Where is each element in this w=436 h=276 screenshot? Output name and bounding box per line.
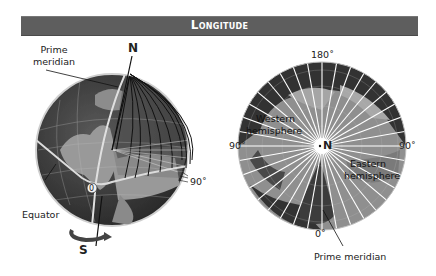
eastern-hemisphere-label: Eastern hemisphere	[348, 158, 400, 182]
polar-map	[232, 56, 412, 246]
north-pole-center-label: N	[323, 140, 332, 152]
eastern-hemisphere-line1: Eastern	[348, 158, 400, 170]
prime-meridian-label-line2: meridian	[26, 56, 82, 68]
western-hemisphere-line2: hemisphere	[246, 125, 302, 137]
ninety-degree-label: 90˚	[190, 176, 207, 188]
longitude-diagram	[0, 0, 436, 276]
western-hemisphere-label: Western hemisphere	[254, 113, 302, 137]
western-hemisphere-line1: Western	[254, 113, 302, 125]
prime-meridian-label: Prime meridian	[26, 44, 82, 68]
prime-meridian-map-label: Prime meridian	[314, 251, 386, 263]
north-pole-label: N	[128, 42, 138, 54]
zero-marker-label: 0	[89, 183, 94, 195]
label-0-degrees: 0˚	[315, 228, 326, 240]
south-pole-label: S	[79, 244, 88, 256]
eastern-hemisphere-line2: hemisphere	[344, 170, 400, 182]
equator-label: Equator	[22, 209, 59, 221]
prime-meridian-label-line1: Prime	[26, 44, 82, 56]
globe	[36, 56, 193, 246]
label-90-west: 90˚	[229, 140, 246, 152]
label-90-east: 90˚	[399, 140, 416, 152]
label-180-degrees: 180˚	[311, 49, 334, 61]
